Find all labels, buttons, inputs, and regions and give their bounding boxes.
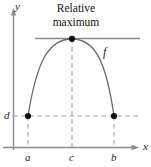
point-b-d xyxy=(111,113,117,119)
relative-maximum-figure: Relative maximum y x d a c b f xyxy=(0,0,151,167)
x-axis-arrow xyxy=(132,145,140,150)
point-c-max xyxy=(69,36,75,42)
x-tick-label-a: a xyxy=(25,152,31,163)
y-tick-label-d: d xyxy=(4,110,10,121)
x-tick-label-b: b xyxy=(111,152,117,163)
x-axis xyxy=(3,145,139,150)
point-a-d xyxy=(25,113,31,119)
y-axis-label: y xyxy=(15,1,20,12)
callout-line-2: maximum xyxy=(38,17,114,29)
x-tick-label-c: c xyxy=(69,152,74,163)
callout-line-1: Relative xyxy=(57,2,95,14)
y-axis xyxy=(11,8,16,150)
function-curve-f xyxy=(28,39,114,116)
x-axis-label: x xyxy=(143,141,148,152)
relative-maximum-callout: Relative maximum xyxy=(38,3,114,28)
curve-label-f: f xyxy=(103,46,106,58)
